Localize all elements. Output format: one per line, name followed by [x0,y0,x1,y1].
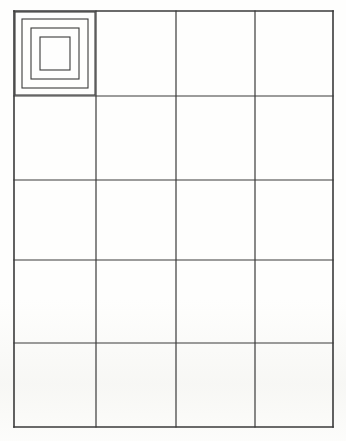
inner-square [40,37,70,70]
worksheet-page [0,0,346,441]
nested-squares-canvas [0,0,346,441]
nested-squares-figure [0,0,346,441]
outer-square [15,12,95,95]
third-square [31,28,79,79]
second-square [22,19,88,88]
